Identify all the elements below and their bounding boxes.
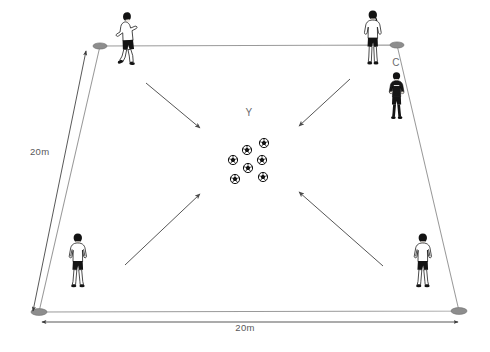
ball-4	[257, 155, 266, 164]
ball-7	[258, 172, 267, 181]
movement-arrows	[125, 79, 383, 266]
player-top-left	[116, 12, 137, 65]
ball-2	[242, 145, 251, 154]
coach-figure	[389, 72, 404, 119]
player-bottom-left	[69, 234, 86, 288]
text-labels: 20m 20m C Y	[30, 57, 400, 333]
player-bottom-right	[414, 234, 431, 288]
ball-6	[230, 174, 239, 183]
corner-marker-top-right	[390, 42, 404, 48]
coach-label: C	[392, 57, 399, 68]
arrow-top-left-to-center	[146, 83, 200, 128]
ball-3	[228, 155, 237, 164]
ball-cluster	[228, 138, 268, 183]
corner-marker-bottom-right	[451, 308, 467, 315]
left-dimension-label: 20m	[30, 146, 49, 157]
corner-marker-top-left	[93, 43, 107, 49]
drill-diagram: 20m 20m C Y	[0, 0, 490, 352]
arrow-top-right-to-center	[299, 79, 350, 126]
arrow-bottom-right-to-center	[299, 192, 383, 266]
player-top-right	[364, 11, 381, 65]
dimension-line-left	[33, 51, 86, 311]
ball-1	[259, 138, 268, 147]
ball-group-label: Y	[246, 107, 253, 118]
bottom-dimension-label: 20m	[235, 322, 254, 333]
diagram-canvas: 20m 20m C Y	[0, 0, 490, 352]
ball-5	[243, 163, 252, 172]
arrow-bottom-left-to-center	[125, 194, 200, 265]
